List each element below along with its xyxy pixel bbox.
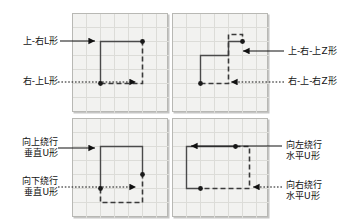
label-right-up-L: 右-上L形 bbox=[4, 76, 58, 87]
label-up-right-L: 上-右L形 bbox=[4, 36, 58, 47]
label-detour-down-vertical-U-line2: 垂直U形 bbox=[2, 187, 58, 198]
label-right-up-L-text: 右-上L形 bbox=[23, 76, 58, 86]
label-right-up-right-Z: 右-上-右Z形 bbox=[288, 76, 340, 87]
label-detour-up-vertical-U-line1: 向上绕行 bbox=[2, 137, 58, 148]
label-up-right-L-text: 上-右L形 bbox=[23, 36, 58, 46]
label-detour-down-vertical-U-line1: 向下绕行 bbox=[2, 176, 58, 187]
label-detour-left-horizontal-U-line2: 水平U形 bbox=[286, 151, 340, 162]
label-detour-up-vertical-U: 向上绕行 垂直U形 bbox=[2, 137, 58, 159]
label-up-right-up-Z-text: 上-右-上Z形 bbox=[288, 46, 337, 56]
label-right-up-right-Z-text: 右-上-右Z形 bbox=[288, 76, 337, 86]
label-detour-up-vertical-U-line2: 垂直U形 bbox=[2, 148, 58, 159]
label-detour-right-horizontal-U-line2: 水平U形 bbox=[286, 191, 340, 202]
label-detour-left-horizontal-U: 向左绕行 水平U形 bbox=[286, 140, 340, 162]
label-detour-right-horizontal-U-line1: 向右绕行 bbox=[286, 180, 340, 191]
label-detour-down-vertical-U: 向下绕行 垂直U形 bbox=[2, 176, 58, 198]
label-detour-right-horizontal-U: 向右绕行 水平U形 bbox=[286, 180, 340, 202]
label-up-right-up-Z: 上-右-上Z形 bbox=[288, 46, 340, 57]
label-detour-left-horizontal-U-line1: 向左绕行 bbox=[286, 140, 340, 151]
figure-root: 上-右L形 右-上L形 上-右-上Z形 右-上-右Z形 向上绕行 垂直U形 向下… bbox=[0, 0, 340, 223]
